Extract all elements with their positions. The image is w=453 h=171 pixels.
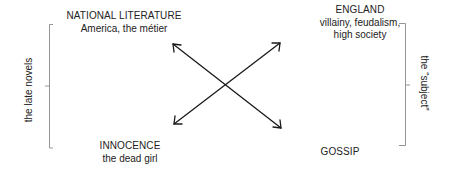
quadrant-heading: INNOCENCE <box>70 140 190 153</box>
quadrant-subtext: villainy, feudalism, <box>300 17 420 30</box>
double-arrow-bl-tr <box>174 43 280 124</box>
left-bracket <box>45 25 53 149</box>
quadrant-bottom-right: GOSSIP <box>280 146 400 159</box>
quadrant-top-left: NATIONAL LITERATURE America, the métier <box>64 10 184 35</box>
quadrant-heading: GOSSIP <box>280 146 400 159</box>
quadrant-subtext: America, the métier <box>64 23 184 36</box>
quadrant-top-right: ENGLAND villainy, feudalism, high societ… <box>300 4 420 42</box>
quadrant-heading: NATIONAL LITERATURE <box>64 10 184 23</box>
left-bracket-label: the late novels <box>23 58 34 123</box>
quadrant-heading: ENGLAND <box>300 4 420 17</box>
quadrant-subtext: the dead girl <box>70 153 190 166</box>
quadrant-subtext: high society <box>300 29 420 42</box>
right-bracket-label: the “subject” <box>419 55 430 110</box>
double-arrow-tl-br <box>173 44 281 128</box>
quadrant-bottom-left: INNOCENCE the dead girl <box>70 140 190 165</box>
right-bracket <box>399 24 410 146</box>
